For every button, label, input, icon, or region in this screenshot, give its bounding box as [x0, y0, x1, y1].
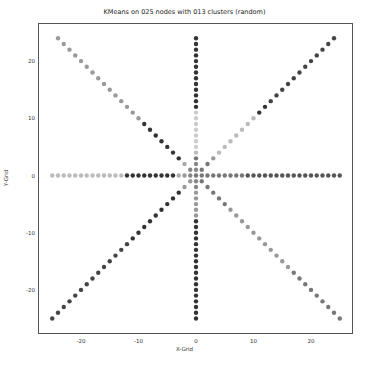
data-point [280, 88, 284, 92]
data-point [246, 225, 250, 229]
data-point [280, 259, 284, 263]
data-point [119, 99, 123, 103]
data-point [102, 173, 106, 177]
data-point [194, 110, 198, 114]
data-point [102, 265, 106, 269]
data-point [223, 145, 227, 149]
y-axis-label: Y-Grid [3, 170, 9, 186]
data-point [73, 53, 77, 57]
data-point [136, 116, 140, 120]
data-point [194, 139, 198, 143]
data-point [240, 128, 244, 132]
data-point [194, 225, 198, 229]
data-point [194, 288, 198, 292]
data-point [240, 173, 244, 177]
x-tick-label: -20 [77, 338, 86, 344]
data-point [194, 236, 198, 240]
data-point [194, 105, 198, 109]
data-point [297, 173, 301, 177]
data-point [194, 65, 198, 69]
data-point [194, 299, 198, 303]
data-point [67, 173, 71, 177]
data-point [303, 65, 307, 69]
data-point [200, 179, 204, 183]
data-point [85, 173, 89, 177]
data-point [223, 173, 227, 177]
data-point [228, 173, 232, 177]
data-point [56, 311, 60, 315]
data-point [182, 173, 186, 177]
data-point [194, 190, 198, 194]
data-point [113, 93, 117, 97]
data-point [142, 173, 146, 177]
data-point [67, 47, 71, 51]
x-axis-label: X-Grid [0, 346, 369, 352]
data-point [286, 82, 290, 86]
data-point [297, 276, 301, 280]
data-point [148, 128, 152, 132]
data-point [188, 168, 192, 172]
data-point [274, 93, 278, 97]
data-point [194, 70, 198, 74]
data-point [326, 305, 330, 309]
data-point [194, 219, 198, 223]
data-point [194, 276, 198, 280]
data-point [188, 179, 192, 183]
data-point [188, 173, 192, 177]
data-point [297, 70, 301, 74]
data-point [159, 173, 163, 177]
data-point [332, 36, 336, 40]
data-point [194, 282, 198, 286]
data-point [194, 311, 198, 315]
data-point [292, 76, 296, 80]
data-point [194, 88, 198, 92]
data-point [136, 173, 140, 177]
data-point [194, 99, 198, 103]
data-point [274, 253, 278, 257]
data-point [177, 156, 181, 160]
data-point [257, 110, 261, 114]
data-point [171, 150, 175, 154]
data-point [257, 236, 261, 240]
data-point [194, 128, 198, 132]
data-point [194, 93, 198, 97]
data-point [205, 173, 209, 177]
x-tick-label: 0 [194, 338, 198, 344]
data-point [56, 36, 60, 40]
data-point [217, 173, 221, 177]
data-point [280, 173, 284, 177]
data-point [154, 133, 158, 137]
data-point [194, 231, 198, 235]
data-point [292, 173, 296, 177]
data-point [194, 173, 198, 177]
data-point [269, 173, 273, 177]
data-point [79, 173, 83, 177]
data-point [194, 76, 198, 80]
data-point [194, 145, 198, 149]
data-point [211, 156, 215, 160]
data-point [148, 219, 152, 223]
data-point [85, 282, 89, 286]
data-point [263, 105, 267, 109]
data-point [263, 242, 267, 246]
data-point [50, 173, 54, 177]
data-point [131, 236, 135, 240]
data-point [154, 213, 158, 217]
data-point [263, 173, 267, 177]
data-point [326, 42, 330, 46]
data-point [194, 179, 198, 183]
data-point [194, 316, 198, 320]
data-point [320, 173, 324, 177]
data-point [326, 173, 330, 177]
data-point [113, 253, 117, 257]
data-point [177, 173, 181, 177]
data-point [73, 293, 77, 297]
data-point [194, 242, 198, 246]
data-point [90, 173, 94, 177]
data-point [165, 202, 169, 206]
data-point [223, 202, 227, 206]
data-point [102, 82, 106, 86]
y-tick-label: -10 [26, 230, 35, 236]
data-point [286, 173, 290, 177]
data-point [332, 173, 336, 177]
